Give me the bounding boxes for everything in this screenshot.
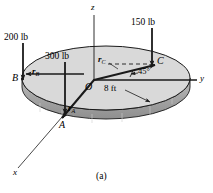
diagram-canvas xyxy=(0,0,213,193)
dimension-label-8ft: 8 ft xyxy=(104,84,116,93)
point-label-a: A xyxy=(59,120,65,130)
vector-label-r-c: rC xyxy=(98,55,106,65)
load-label-150lb: 150 lb xyxy=(131,18,155,28)
vector-subscript-a: A xyxy=(72,108,76,114)
point-label-c: C xyxy=(157,56,164,66)
vector-subscript-b: B xyxy=(36,71,40,77)
angle-label-45: 45° xyxy=(138,67,150,76)
vector-subscript-c: C xyxy=(102,59,106,65)
axis-y-label: y xyxy=(200,74,204,83)
point-label-b: B xyxy=(12,73,18,83)
load-label-300lb: 300 lb xyxy=(45,52,69,62)
figure-container: z y x O 200 lb 300 lb 150 lb B A C rB rA… xyxy=(0,0,213,193)
vector-label-r-a: rA xyxy=(68,104,75,114)
origin-label: O xyxy=(85,82,92,92)
vector-label-r-b: rB xyxy=(32,67,39,77)
load-label-200lb: 200 lb xyxy=(4,33,28,43)
axis-x-label: x xyxy=(13,168,17,177)
figure-caption: (a) xyxy=(96,172,107,182)
axis-z-label: z xyxy=(91,3,95,12)
